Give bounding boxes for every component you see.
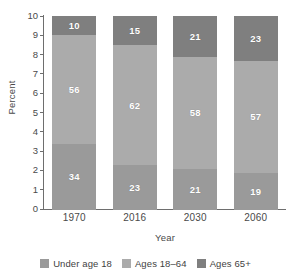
- bar-segment-label: 23: [129, 183, 140, 193]
- legend-swatch-icon: [197, 259, 206, 268]
- bar-segment-label: 57: [250, 112, 261, 122]
- bar-column[interactable]: 215821: [173, 16, 217, 210]
- y-axis-tick: 1: [0, 185, 44, 195]
- legend-label: Ages 18–64: [135, 258, 187, 269]
- bar-segment-label: 15: [129, 26, 140, 36]
- legend-label: Under age 18: [53, 258, 112, 269]
- bar-segment-label: 23: [250, 34, 261, 44]
- bar-segment[interactable]: 58: [173, 57, 217, 170]
- bar-segment[interactable]: 62: [113, 45, 157, 165]
- y-axis-tick: 3: [0, 146, 44, 156]
- bar-segment[interactable]: 15: [113, 16, 157, 45]
- legend-item[interactable]: Ages 18–64: [122, 258, 187, 269]
- legend-item[interactable]: Under age 18: [40, 258, 112, 269]
- y-axis-tick-label: 4: [33, 127, 38, 137]
- bar-segment[interactable]: 21: [173, 169, 217, 210]
- bar-column[interactable]: 235719: [234, 16, 278, 210]
- bar-segment-label: 56: [69, 85, 80, 95]
- legend-item[interactable]: Ages 65+: [197, 258, 251, 269]
- y-axis-tick: 2: [0, 165, 44, 175]
- bar-segment[interactable]: 57: [234, 61, 278, 173]
- legend-label: Ages 65+: [210, 258, 251, 269]
- x-axis-title: Year: [44, 232, 286, 243]
- bar-segment[interactable]: 56: [52, 35, 96, 144]
- bar-segment-label: 21: [190, 185, 201, 195]
- y-axis-tick-label: 10: [27, 11, 38, 21]
- y-axis-tick-label: 8: [33, 50, 38, 60]
- bar-segment[interactable]: 23: [113, 165, 157, 210]
- bar-column[interactable]: 156223: [113, 16, 157, 210]
- bar-segment-label: 10: [69, 21, 80, 31]
- bar-segment[interactable]: 10: [52, 16, 96, 35]
- bar-segment-label: 58: [190, 108, 201, 118]
- bar-segment[interactable]: 23: [234, 16, 278, 61]
- y-axis-tick-label: 0: [33, 204, 38, 214]
- y-axis-tick-label: 7: [33, 69, 38, 79]
- y-axis-tick: 0: [0, 204, 44, 214]
- y-axis-tick-label: 2: [33, 165, 38, 175]
- y-axis-tick-label: 1: [33, 185, 38, 195]
- bar-segment-label: 34: [69, 172, 80, 182]
- bar-segment-label: 19: [250, 187, 261, 197]
- bar-column[interactable]: 105634: [52, 16, 96, 210]
- y-axis-tick: 8: [0, 50, 44, 60]
- y-axis-tick-label: 3: [33, 146, 38, 156]
- x-axis-tick-labels: 1970201620302060: [44, 212, 286, 228]
- legend-swatch-icon: [122, 259, 131, 268]
- y-axis-tick-label: 6: [33, 88, 38, 98]
- x-axis-tick-label: 2016: [113, 212, 157, 228]
- y-axis-tick: 10: [0, 11, 44, 21]
- x-axis-tick-label: 1970: [52, 212, 96, 228]
- x-axis-tick-label: 2060: [234, 212, 278, 228]
- bar-segment[interactable]: 19: [234, 173, 278, 210]
- bar-group: 105634156223215821235719: [44, 16, 286, 210]
- chart-legend: Under age 18Ages 18–64Ages 65+: [0, 258, 291, 269]
- y-axis-tick: 9: [0, 30, 44, 40]
- y-axis-tick: 5: [0, 108, 44, 118]
- y-axis-tick: 6: [0, 88, 44, 98]
- bar-segment[interactable]: 21: [173, 16, 217, 57]
- y-axis-ticks: 109876543210: [0, 0, 44, 225]
- bar-segment-label: 21: [190, 32, 201, 42]
- y-axis-tick-label: 9: [33, 30, 38, 40]
- y-axis-tick: 4: [0, 127, 44, 137]
- legend-swatch-icon: [40, 259, 49, 268]
- bar-segment[interactable]: 34: [52, 144, 96, 210]
- bar-segment-label: 62: [129, 101, 140, 111]
- x-axis-tick-label: 2030: [173, 212, 217, 228]
- y-axis-tick: 7: [0, 69, 44, 79]
- y-axis-tick-label: 5: [33, 108, 38, 118]
- stacked-bar-chart: Percent 109876543210 1056341562232158212…: [0, 0, 291, 279]
